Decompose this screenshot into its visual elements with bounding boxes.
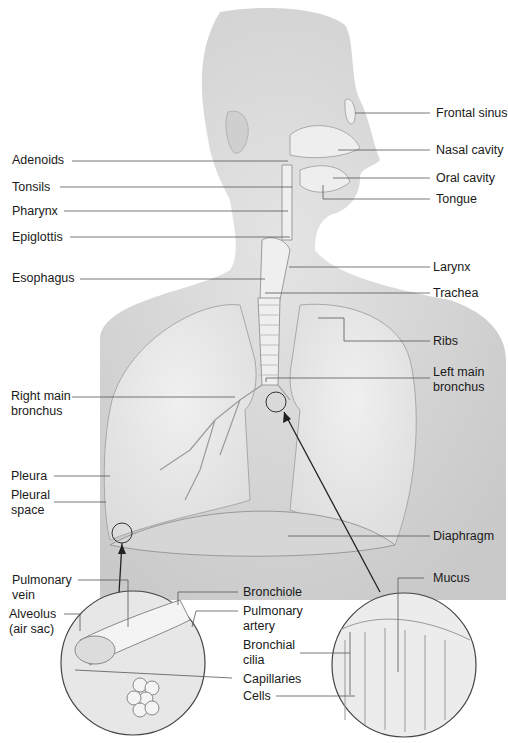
inset-bronchus — [332, 593, 476, 737]
label-tonsils: Tonsils — [12, 180, 50, 195]
label-diaphragm: Diaphragm — [433, 529, 494, 544]
label-bronchial-cilia: Bronchial cilia — [243, 638, 303, 668]
label-esophagus: Esophagus — [12, 271, 75, 286]
label-left-main-bronchus: Left main bronchus — [433, 365, 493, 395]
left-lung — [290, 304, 416, 545]
label-adenoids: Adenoids — [12, 153, 64, 168]
label-pharynx: Pharynx — [12, 204, 58, 219]
label-right-main-bronchus: Right main bronchus — [11, 389, 81, 419]
label-pulmonary-vein: Pulmonary vein — [12, 573, 82, 603]
label-ribs: Ribs — [433, 334, 458, 349]
label-frontal-sinus: Frontal sinus — [436, 106, 508, 121]
label-pleura: Pleura — [11, 469, 47, 484]
label-mucus: Mucus — [433, 571, 470, 586]
label-alveolus: Alveolus (air sac) — [9, 607, 67, 637]
label-tongue: Tongue — [436, 192, 477, 207]
label-nasal-cavity: Nasal cavity — [436, 143, 503, 158]
label-oral-cavity: Oral cavity — [436, 171, 495, 186]
label-pleural-space: Pleural space — [11, 488, 61, 518]
label-cells: Cells — [243, 689, 271, 704]
label-larynx: Larynx — [433, 260, 471, 275]
label-trachea: Trachea — [433, 286, 478, 301]
label-epiglottis: Epiglottis — [12, 230, 63, 245]
label-pulmonary-artery: Pulmonary artery — [243, 604, 313, 634]
label-capillaries: Capillaries — [243, 672, 301, 687]
label-bronchiole: Bronchiole — [243, 585, 302, 600]
